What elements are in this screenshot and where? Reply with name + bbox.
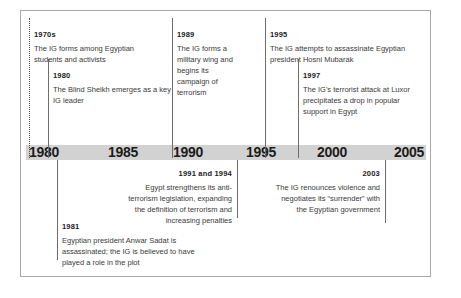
connector-line-1981 (57, 160, 58, 260)
event-year-1997: 1997 (303, 71, 420, 80)
axis-tick-1980: 1980 (29, 144, 59, 160)
timeline-axis-band (26, 145, 426, 160)
axis-tick-2000: 2000 (317, 144, 347, 160)
connector-line-1997 (298, 59, 299, 158)
timeline-infographic: 1980 1985 1990 1995 2000 2005 1970s The … (0, 0, 461, 298)
event-year-1989: 1989 (177, 30, 239, 39)
event-desc-1997: The IG's terrorist attack at Luxor preci… (303, 84, 420, 117)
timeline-event-1989: 1989 The IG forms a military wing and be… (177, 30, 239, 98)
event-desc-1980: The Blind Sheikh emerges as a key IG lea… (53, 84, 171, 106)
event-year-1991-1994: 1991 and 1994 (117, 169, 232, 178)
event-year-2003: 2003 (272, 169, 380, 178)
connector-line-1995 (265, 18, 266, 158)
event-desc-2003: The IG renounces violence and negotiates… (272, 182, 380, 215)
connector-line-1970s (29, 18, 30, 158)
event-year-1995: 1995 (270, 30, 420, 39)
event-year-1981: 1981 (62, 222, 212, 231)
event-desc-1970s: The IG forms among Egyptian students and… (34, 43, 152, 65)
timeline-plot-area: 1980 1985 1990 1995 2000 2005 1970s The … (20, 10, 431, 277)
timeline-event-1991-1994: 1991 and 1994 Egypt strengthens its anti… (117, 169, 232, 226)
connector-line-2003 (385, 160, 386, 223)
timeline-event-1981: 1981 Egyptian president Anwar Sadat is a… (62, 222, 212, 268)
timeline-event-1997: 1997 The IG's terrorist attack at Luxor … (303, 71, 420, 117)
axis-tick-1985: 1985 (108, 144, 138, 160)
timeline-event-1980: 1980 The Blind Sheikh emerges as a key I… (53, 71, 171, 106)
event-desc-1989: The IG forms a military wing and begins … (177, 43, 239, 98)
event-desc-1991-1994: Egypt strengthens its anti-terrorism leg… (117, 182, 232, 226)
event-desc-1995: The IG attempts to assassinate Egyptian … (270, 43, 420, 65)
event-year-1970s: 1970s (34, 30, 152, 39)
timeline-event-1970s: 1970s The IG forms among Egyptian studen… (34, 30, 152, 65)
connector-line-1989 (172, 18, 173, 158)
event-desc-1981: Egyptian president Anwar Sadat is assass… (62, 235, 212, 268)
axis-tick-1990: 1990 (173, 144, 203, 160)
connector-line-1980 (48, 59, 49, 158)
timeline-event-2003: 2003 The IG renounces violence and negot… (272, 169, 380, 215)
axis-tick-1995: 1995 (246, 144, 276, 160)
connector-line-1991-1994 (237, 160, 238, 218)
timeline-event-1995: 1995 The IG attempts to assassinate Egyp… (270, 30, 420, 65)
axis-tick-2005: 2005 (394, 144, 424, 160)
event-year-1980: 1980 (53, 71, 171, 80)
